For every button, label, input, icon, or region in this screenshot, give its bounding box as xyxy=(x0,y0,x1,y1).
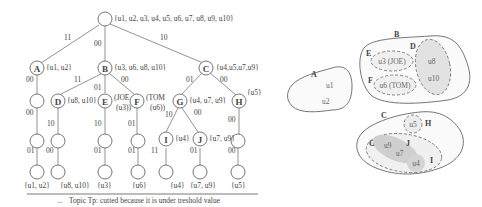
edge-leaf-6: 01 xyxy=(190,146,198,155)
venn-c-label: C xyxy=(381,111,387,120)
node-g-label: G xyxy=(176,97,183,107)
edge-l3-2: 10 xyxy=(47,119,55,128)
node-b-set: {u3, u6, u8, u10} xyxy=(114,63,166,72)
venn-a-u2: u2 xyxy=(322,97,330,106)
edge-c-g: 01 xyxy=(186,75,194,84)
node-b-label: B xyxy=(102,64,108,74)
venn-cluster-c: C u5 H G u9 u7 J u4 I xyxy=(357,111,464,177)
edge-leaf-2: 00 xyxy=(46,146,54,155)
venn-i-u4: u4 xyxy=(412,159,420,168)
edge-root-b: 00 xyxy=(94,39,102,48)
edge-leaf-5: 11 xyxy=(151,146,158,155)
leaf-4-set: {u6} xyxy=(132,181,147,190)
venn-e-text: u3 (JOE) xyxy=(378,57,406,66)
edge-leaf-4: 01 xyxy=(128,146,136,155)
node-e-label: E xyxy=(102,97,108,107)
venn-j-u7: u7 xyxy=(396,149,404,158)
footnote-text: Topic Tp: cutted because it is under tre… xyxy=(69,196,221,205)
edge-b-d: 11 xyxy=(74,75,81,84)
leaf-6 xyxy=(193,165,207,179)
leaf-4 xyxy=(131,165,145,179)
node-j-label: J xyxy=(198,135,203,145)
node-e-set-1: (JOE xyxy=(114,93,130,102)
venn-cluster-b: B E u3 (JOE) F u6 (TOM) D u8 u10 xyxy=(360,30,470,103)
edge-b-e: 01 xyxy=(94,83,102,92)
edge-leaf-3: 01 xyxy=(94,146,102,155)
root-set: {u1, u2, u3, u4, u5, u6, u7, u8, u9, u10… xyxy=(114,14,234,23)
leaf-1 xyxy=(30,165,44,179)
venn-a-u1: u1 xyxy=(326,81,334,90)
node-j-set: {u7, u9} xyxy=(209,134,235,143)
venn-h-label: H xyxy=(425,119,432,128)
node-e-set-2: (u3)) xyxy=(116,103,131,112)
venn-d-u10: u10 xyxy=(428,74,440,83)
root-node xyxy=(98,12,112,26)
edge-root-a: 11 xyxy=(64,33,71,42)
edge-l3-7: 00 xyxy=(228,115,236,124)
node-d-set: {u8, u10} xyxy=(67,96,97,105)
edge-b-f: 00 xyxy=(121,75,129,84)
node-f-set-1: (TOM xyxy=(146,93,165,102)
node-c-set: {u4,u5,u7,u9} xyxy=(216,63,259,72)
venn-b-label: B xyxy=(394,30,400,39)
venn-e-label: E xyxy=(366,49,371,58)
venn-d-u8: u8 xyxy=(428,57,436,66)
leaf-3-set: {u3} xyxy=(97,181,112,190)
node-d-label: D xyxy=(55,97,62,107)
leaf-7 xyxy=(231,165,245,179)
node-g-set: {u4, u7, u9} xyxy=(189,96,226,105)
venn-f-text: u6 (TOM) xyxy=(380,81,411,90)
node-a-child xyxy=(30,94,44,108)
leaf-5 xyxy=(159,165,173,179)
edge-g-i: 10 xyxy=(165,110,173,119)
edge-g-j: 00 xyxy=(194,108,202,117)
venn-h-u5: u5 xyxy=(409,120,417,129)
edge-leaf-7: 00 xyxy=(228,146,236,155)
node-i-set: {u4} xyxy=(175,134,190,143)
leaf-3 xyxy=(98,165,112,179)
edge-leaf-1: 01 xyxy=(27,146,35,155)
leaf-1-set: {u1, u2} xyxy=(24,181,50,190)
diagram-canvas: A B C D E F G H I J {u1, u2, u3, u4, u5,… xyxy=(0,0,482,207)
edge-a-child: 00 xyxy=(26,75,34,84)
node-h-set: {u5} xyxy=(247,88,262,97)
leaf-2-set: {u8, u10} xyxy=(60,181,90,190)
node-c-label: C xyxy=(203,64,210,74)
leaf-7-set: {u5} xyxy=(231,181,246,190)
footnote-marker: ... xyxy=(57,196,63,205)
node-a-label: A xyxy=(34,64,41,74)
node-i-label: I xyxy=(164,135,168,145)
edge-l3-1: 00 xyxy=(26,108,34,117)
edge-l3-4: 01 xyxy=(128,119,136,128)
node-f-label: F xyxy=(134,97,140,107)
venn-j-u9: u9 xyxy=(384,141,392,150)
venn-f-label: F xyxy=(368,76,373,85)
edge-c-h: 00 xyxy=(220,75,228,84)
leaf-2 xyxy=(51,165,65,179)
venn-j-label: J xyxy=(406,139,410,148)
venn-a-label: A xyxy=(311,70,317,79)
node-a-set: {u1, u2} xyxy=(46,63,72,72)
venn-i-label: I xyxy=(430,156,433,165)
node-h-label: H xyxy=(235,97,242,107)
venn-cluster-a: A u1 u2 xyxy=(288,67,353,112)
node-f-set-2: (u6)) xyxy=(150,103,165,112)
edge-l3-3: 10 xyxy=(94,119,102,128)
leaf-6-set: {u7, u9} xyxy=(190,181,216,190)
venn-d-label: D xyxy=(410,42,416,51)
edge-root-c: 10 xyxy=(160,33,168,42)
leaf-5-set: {u4} xyxy=(170,181,185,190)
